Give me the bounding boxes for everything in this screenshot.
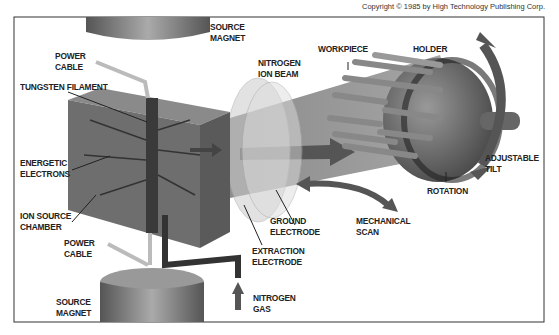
label-tungsten-filament: TUNGSTEN FILAMENT — [20, 81, 108, 92]
label-ion-source-chamber: ION SOURCE CHAMBER — [20, 210, 71, 232]
label-nitrogen-ion-beam: NITROGEN ION BEAM — [258, 57, 301, 79]
label-extraction-electrode: EXTRACTION ELECTRODE — [252, 245, 305, 267]
label-source-magnet-top: SOURCE MAGNET — [210, 21, 245, 43]
electrodes — [226, 78, 302, 222]
label-mechanical-scan: MECHANICAL SCAN — [356, 215, 410, 237]
label-power-cable-bottom: POWER CABLE — [64, 237, 95, 259]
label-ground-electrode: GROUND ELECTRODE — [270, 215, 320, 237]
label-energetic-electrons: ENERGETIC ELECTRONS — [20, 157, 70, 179]
source-magnet-bottom — [100, 268, 204, 322]
label-rotation: ROTATION — [427, 185, 468, 196]
label-power-cable-top: POWER CABLE — [55, 50, 86, 72]
label-holder: HOLDER — [413, 43, 447, 54]
label-source-magnet-bottom: SOURCE MAGNET — [56, 296, 91, 318]
label-adjustable-tilt: ADJUSTABLE TILT — [485, 152, 539, 174]
label-nitrogen-gas: NITROGEN GAS — [253, 292, 296, 314]
label-workpiece: WORKPIECE — [318, 43, 368, 54]
